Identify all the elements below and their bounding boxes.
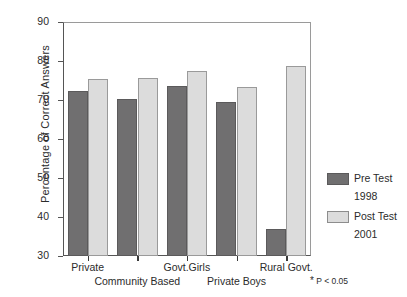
bar-govt-girls-post-test — [187, 71, 207, 256]
y-tick-label: 50 — [37, 171, 49, 183]
legend-entry-pre-test: Pre Test — [327, 172, 407, 187]
x-tick-mark-3 — [237, 256, 238, 261]
bar-rural-govt--post-test — [286, 66, 306, 256]
legend-entry-post-test: Post Test — [327, 210, 407, 225]
legend-sub-post-test: 2001 — [354, 226, 407, 242]
y-tick-label: 90 — [37, 15, 49, 27]
legend-label-post-test: Post Test — [354, 210, 397, 222]
bar-private-post-test — [88, 79, 108, 256]
legend-swatch-post-test-icon — [327, 211, 349, 223]
x-axis-label-rural-govt-: Rural Govt. — [260, 261, 313, 273]
y-axis-title: Percentage of Correct Answers — [39, 4, 51, 244]
y-tick-label: 30 — [37, 249, 49, 261]
bar-community-based-pre-test — [117, 99, 137, 256]
footnote-text: P < 0.05 — [316, 276, 348, 286]
y-tick-label: 80 — [37, 54, 49, 66]
y-tick-label: 60 — [37, 132, 49, 144]
y-tick-label: 40 — [37, 210, 49, 222]
asterisk-icon: * — [310, 275, 314, 286]
bar-private-pre-test — [68, 91, 88, 256]
bar-community-based-post-test — [138, 78, 158, 256]
significance-footnote: * P < 0.05 — [310, 275, 348, 286]
x-tick-mark-1 — [137, 256, 138, 261]
bar-private-boys-pre-test — [216, 102, 236, 256]
bar-chart: Percentage of Correct Answers 9080706050… — [0, 0, 407, 297]
x-axis-label-private: Private — [71, 261, 104, 273]
bar-rural-govt--pre-test — [266, 229, 286, 256]
legend-label-pre-test: Pre Test — [354, 172, 392, 184]
x-axis-label-private-boys: Private Boys — [207, 275, 266, 287]
legend-sub-pre-test: 1998 — [354, 188, 407, 204]
x-axis-label-community-based: Community Based — [94, 275, 180, 287]
legend-swatch-pre-test-icon — [327, 173, 349, 185]
bars-layer — [63, 22, 311, 256]
legend: Pre Test 1998 Post Test 2001 — [327, 172, 407, 242]
bar-govt-girls-pre-test — [167, 86, 187, 256]
y-tick-label: 70 — [37, 93, 49, 105]
x-axis-label-govt-girls: Govt.Girls — [164, 261, 211, 273]
bar-private-boys-post-test — [237, 87, 257, 256]
